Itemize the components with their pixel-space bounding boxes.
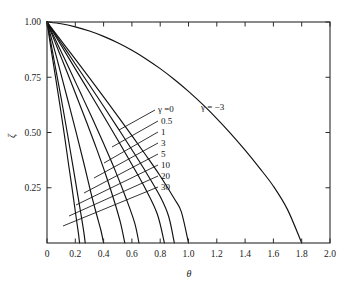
series-label-gamma-minus-3: γ = −3 <box>200 102 225 112</box>
series-label: 10 <box>161 160 171 170</box>
series-label: 5 <box>161 149 166 159</box>
x-tick-label: 0.2 <box>69 249 81 259</box>
data-curve <box>47 22 302 243</box>
series-label: γ =0 <box>157 104 174 114</box>
chart-canvas: 00.20.40.60.81.01.21.41.61.82.00.250.500… <box>0 0 345 285</box>
y-axis-title: ζ <box>6 133 18 138</box>
leader-line <box>94 143 158 178</box>
x-tick-label: 2.0 <box>324 249 336 259</box>
x-tick-label: 1.2 <box>211 249 223 259</box>
curves-group <box>47 22 302 243</box>
data-curve <box>47 22 164 243</box>
data-curve <box>47 22 189 243</box>
x-tick-label: 0.6 <box>126 249 138 259</box>
y-tick-label: 0.75 <box>24 73 41 83</box>
x-tick-label: 1.8 <box>296 249 308 259</box>
x-tick-label: 0.4 <box>98 249 110 259</box>
series-label: 1 <box>161 127 166 137</box>
leader-line <box>76 165 158 205</box>
leader-line <box>119 110 155 130</box>
x-tick-label: 1.0 <box>183 249 195 259</box>
leader-line <box>112 121 158 147</box>
data-curve <box>47 22 85 243</box>
figure-container: 00.20.40.60.81.01.21.41.61.82.00.250.500… <box>0 0 345 285</box>
x-axis-title: θ <box>187 268 192 279</box>
y-tick-label: 1.00 <box>24 17 41 27</box>
x-tick-label: 0 <box>45 249 50 259</box>
series-label: 0.5 <box>161 116 173 126</box>
x-tick-label: 1.4 <box>239 249 251 259</box>
series-label: 20 <box>161 171 171 181</box>
series-label: 3 <box>161 138 166 148</box>
series-label: 30 <box>161 182 171 192</box>
x-tick-label: 1.6 <box>267 249 279 259</box>
leader-line <box>69 176 158 216</box>
y-tick-label: 0.50 <box>24 128 41 138</box>
y-tick-label: 0.25 <box>24 183 41 193</box>
x-tick-label: 0.8 <box>154 249 166 259</box>
